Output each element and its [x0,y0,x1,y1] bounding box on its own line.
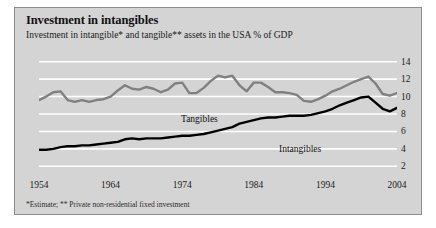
plot-area [39,53,397,175]
x-axis-ticks: 195419641974198419942004 [15,180,423,194]
chart-figure: Investment in intangibles Investment in … [14,7,422,215]
chart-footnote: *Estimate; ** Private non-residential fi… [26,200,190,209]
x-axis-tick-label: 1964 [101,180,120,190]
series-line-intangibles [39,97,397,150]
y-axis-tick-label: 12 [401,74,411,84]
y-axis-tick-label: 10 [401,92,411,102]
x-axis-tick-label: 2004 [388,180,407,190]
y-axis-tick-label: 14 [401,57,411,67]
chart-header: Investment in intangibles Investment in … [26,13,413,41]
y-axis-ticks: 2468101214 [401,53,423,175]
series-label-intangibles: Intangibles [279,144,321,154]
y-axis-tick-label: 2 [401,161,406,171]
y-axis-tick-label: 6 [401,126,406,136]
y-axis-tick-label: 8 [401,109,406,119]
chart-subtitle: Investment in intangible* and tangible**… [26,29,413,41]
y-axis-tick-label: 4 [401,144,406,154]
series-lines [39,76,397,150]
series-label-tangibles: Tangibles [181,114,218,124]
x-axis-tick-label: 1994 [316,180,335,190]
x-axis-tick-label: 1974 [173,180,192,190]
x-axis-tick-label: 1984 [244,180,263,190]
chart-title: Investment in intangibles [26,13,413,27]
x-axis-tick-label: 1954 [30,180,49,190]
chart-canvas [39,53,397,175]
gridlines [39,62,397,167]
